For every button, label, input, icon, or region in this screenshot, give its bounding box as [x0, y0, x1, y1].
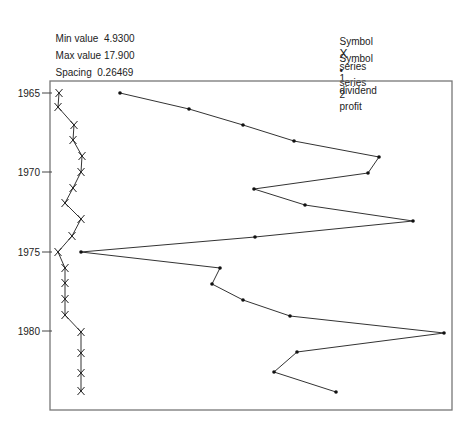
- dividend-line: [58, 93, 82, 391]
- dot-marker-icon: [366, 171, 370, 175]
- dot-marker-icon: [187, 107, 191, 111]
- dot-marker-icon: [218, 266, 222, 270]
- dot-marker-icon: [377, 155, 381, 159]
- dot-marker-icon: [288, 314, 292, 318]
- dot-marker-icon: [210, 282, 214, 286]
- profit-line: [81, 93, 444, 392]
- y-tick-label: 1965: [18, 88, 41, 99]
- series-dividend: [55, 89, 86, 395]
- x-marker-icon: [70, 184, 77, 192]
- plot-frame: [50, 81, 452, 410]
- dot-marker-icon: [292, 139, 296, 143]
- dot-marker-icon: [241, 298, 245, 302]
- y-axis: 1965197019751980: [18, 88, 52, 337]
- y-tick-label: 1975: [18, 247, 41, 258]
- dot-marker-icon: [79, 250, 83, 254]
- dot-marker-icon: [118, 91, 122, 95]
- dot-marker-icon: [303, 203, 307, 207]
- dot-marker-icon: [253, 235, 257, 239]
- dot-marker-icon: [252, 187, 256, 191]
- y-tick-label: 1980: [18, 326, 41, 337]
- x-marker-icon: [69, 232, 76, 240]
- x-marker-icon: [55, 248, 62, 256]
- dot-marker-icon: [272, 370, 276, 374]
- x-marker-icon: [78, 215, 85, 223]
- dot-marker-icon: [334, 390, 338, 394]
- dot-marker-icon: [411, 219, 415, 223]
- dot-marker-icon: [241, 123, 245, 127]
- series-profit: [79, 91, 446, 394]
- chart-plot: 1965197019751980: [0, 0, 475, 430]
- dot-marker-icon: [442, 331, 446, 335]
- x-marker-icon: [62, 199, 69, 207]
- dot-marker-icon: [295, 350, 299, 354]
- y-tick-label: 1970: [18, 167, 41, 178]
